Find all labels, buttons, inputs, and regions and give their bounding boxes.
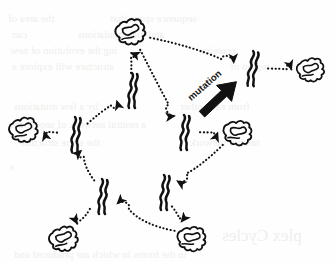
unfolded-chain-glyph [180,115,189,150]
transition-arrow [200,132,218,137]
folded-protein-glyph [176,226,206,253]
folded-protein-glyph [47,225,79,254]
transition-arrow [87,101,117,124]
edge-layer [44,38,291,231]
transition-arrow [78,151,94,181]
transition-arrow [177,145,223,182]
unfolded-chain-glyph [71,117,80,152]
unfolded-chain-glyph [98,179,107,214]
transition-arrow [150,38,234,63]
folded-protein-glyph [8,116,39,143]
figure-canvas: the area ofsequence space thatcanand the… [0,0,336,262]
folded-protein-glyph [222,119,253,146]
transition-arrow [140,50,174,116]
unfolded-chain-glyph [160,175,169,210]
transition-arrow [268,65,291,70]
unfolded-chain-glyph [247,51,259,87]
folded-protein-glyph [296,57,325,82]
transition-arrow [75,209,90,224]
node-layer [8,17,325,253]
folded-protein-glyph [114,17,147,46]
mutation-network-diagram [0,0,336,262]
transition-arrow [44,132,57,137]
transition-arrow [172,206,184,221]
transition-arrow [131,53,136,73]
unfolded-chain-glyph [128,73,137,108]
